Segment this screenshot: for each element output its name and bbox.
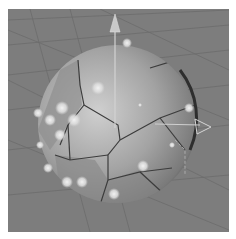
y-axis-arrow-icon[interactable] — [110, 14, 120, 32]
3d-viewport[interactable] — [8, 9, 229, 232]
fractured-sphere[interactable] — [38, 45, 197, 210]
viewport-canvas[interactable] — [8, 9, 229, 232]
